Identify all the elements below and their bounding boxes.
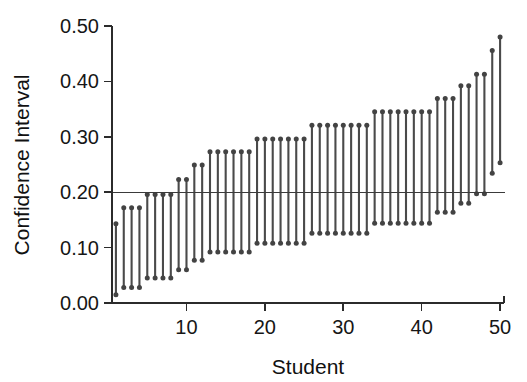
ci-upper-marker	[239, 149, 244, 154]
ci-lower-marker	[404, 221, 409, 226]
ci-upper-marker	[341, 123, 346, 128]
x-tick-label-20: 20	[254, 316, 276, 338]
ci-upper-marker	[176, 177, 181, 182]
confidence-interval-chart: 0.000.100.200.300.400.50 1020304050 Conf…	[0, 0, 527, 382]
ci-lower-marker	[113, 292, 118, 297]
ci-lower-marker	[309, 231, 314, 236]
ci-lower-marker	[168, 276, 173, 281]
ci-upper-marker	[411, 109, 416, 114]
x-tick-label-40: 40	[411, 316, 433, 338]
ci-lower-marker	[490, 171, 495, 176]
ci-lower-marker	[121, 285, 126, 290]
ci-upper-marker	[270, 137, 275, 142]
y-tick-label-0.20: 0.20	[60, 181, 99, 203]
x-axis-title: Student	[272, 355, 345, 378]
ci-lower-marker	[302, 241, 307, 246]
ci-upper-marker	[200, 163, 205, 168]
ci-lower-marker	[411, 221, 416, 226]
ci-upper-marker	[309, 123, 314, 128]
chart-container: 0.000.100.200.300.400.50 1020304050 Conf…	[0, 0, 527, 382]
ci-upper-marker	[208, 149, 213, 154]
ci-lower-marker	[231, 250, 236, 255]
ci-lower-marker	[247, 250, 252, 255]
ci-lower-marker	[419, 221, 424, 226]
ci-lower-marker	[223, 250, 228, 255]
ci-lower-marker	[137, 285, 142, 290]
ci-upper-marker	[451, 96, 456, 101]
y-tick-label-0.00: 0.00	[60, 292, 99, 314]
y-tick-label-0.30: 0.30	[60, 126, 99, 148]
ci-lower-marker	[192, 258, 197, 263]
ci-upper-marker	[498, 35, 503, 40]
ci-lower-marker	[451, 210, 456, 215]
x-tick-label-50: 50	[489, 316, 511, 338]
ci-upper-marker	[474, 72, 479, 77]
ci-lower-marker	[286, 241, 291, 246]
ci-upper-marker	[443, 96, 448, 101]
ci-lower-marker	[466, 201, 471, 206]
ci-upper-marker	[356, 123, 361, 128]
ci-upper-marker	[388, 109, 393, 114]
ci-lower-marker	[333, 231, 338, 236]
ci-upper-marker	[325, 123, 330, 128]
x-tick-label-10: 10	[175, 316, 197, 338]
ci-lower-marker	[364, 231, 369, 236]
ci-upper-marker	[286, 137, 291, 142]
ci-lower-marker	[262, 241, 267, 246]
ci-upper-marker	[294, 137, 299, 142]
ci-upper-marker	[223, 149, 228, 154]
ci-lower-marker	[325, 231, 330, 236]
ci-upper-marker	[419, 109, 424, 114]
ci-upper-marker	[490, 48, 495, 53]
ci-lower-marker	[270, 241, 275, 246]
ci-upper-marker	[129, 205, 134, 210]
ci-lower-marker	[278, 241, 283, 246]
ci-lower-marker	[317, 231, 322, 236]
ci-lower-marker	[356, 231, 361, 236]
ci-upper-marker	[435, 96, 440, 101]
ci-lower-marker	[458, 201, 463, 206]
x-tick-label-30: 30	[332, 316, 354, 338]
ci-upper-marker	[458, 83, 463, 88]
ci-lower-marker	[153, 276, 158, 281]
ci-lower-marker	[372, 221, 377, 226]
ci-upper-marker	[192, 163, 197, 168]
ci-lower-marker	[396, 221, 401, 226]
ci-lower-marker	[255, 241, 260, 246]
ci-upper-marker	[427, 109, 432, 114]
ci-lower-marker	[388, 221, 393, 226]
ci-upper-marker	[278, 137, 283, 142]
ci-lower-marker	[208, 250, 213, 255]
ci-lower-marker	[184, 267, 189, 272]
ci-lower-marker	[380, 221, 385, 226]
ci-lower-marker	[200, 258, 205, 263]
ci-upper-marker	[247, 149, 252, 154]
ci-upper-marker	[262, 137, 267, 142]
ci-upper-marker	[380, 109, 385, 114]
y-tick-label-0.50: 0.50	[60, 15, 99, 37]
ci-lower-marker	[498, 160, 503, 165]
ci-upper-marker	[113, 221, 118, 226]
y-axis-title: Confidence Interval	[10, 75, 33, 256]
ci-lower-marker	[349, 231, 354, 236]
ci-upper-marker	[364, 123, 369, 128]
ci-lower-marker	[215, 250, 220, 255]
ci-upper-marker	[404, 109, 409, 114]
ci-upper-marker	[137, 205, 142, 210]
ci-upper-marker	[396, 109, 401, 114]
ci-upper-marker	[231, 149, 236, 154]
ci-lower-marker	[176, 267, 181, 272]
ci-lower-marker	[239, 250, 244, 255]
ci-lower-marker	[294, 241, 299, 246]
y-tick-label-0.10: 0.10	[60, 237, 99, 259]
ci-lower-marker	[129, 285, 134, 290]
ci-upper-marker	[215, 149, 220, 154]
ci-lower-marker	[427, 221, 432, 226]
ci-upper-marker	[482, 72, 487, 77]
ci-lower-marker	[145, 276, 150, 281]
ci-upper-marker	[317, 123, 322, 128]
ci-lower-marker	[435, 210, 440, 215]
ci-upper-marker	[372, 109, 377, 114]
ci-upper-marker	[302, 137, 307, 142]
ci-lower-marker	[341, 231, 346, 236]
